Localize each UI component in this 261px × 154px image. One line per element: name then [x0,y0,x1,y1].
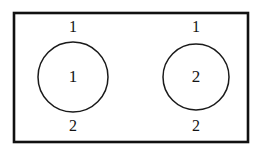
node-left-bottom-port-label: 2 [69,117,77,134]
diagram-canvas: 1 1 2 2 1 2 [0,0,261,154]
node-label-right: 2 [192,67,201,86]
node-right-top-port-label: 1 [192,18,200,35]
node-right-bottom-port-label: 2 [192,117,200,134]
node-label-left: 1 [69,67,78,86]
node-left-top-port-label: 1 [69,18,77,35]
